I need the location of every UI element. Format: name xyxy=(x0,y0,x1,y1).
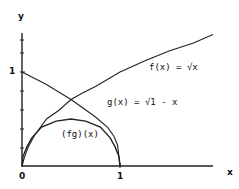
g-label: g(x) = √1 - x xyxy=(107,98,177,107)
y-tick-1: 1 xyxy=(9,67,15,76)
x-axis-label: x xyxy=(227,168,233,177)
x-axis xyxy=(22,163,213,168)
f-label: f(x) = √x xyxy=(149,63,198,72)
y-axis xyxy=(20,33,25,167)
y-axis-label: y xyxy=(18,12,24,21)
x-tick-1: 1 xyxy=(117,172,123,181)
x-tick-0: 0 xyxy=(19,172,25,181)
fg-label: (fg)(x) xyxy=(61,130,99,139)
plot-canvas xyxy=(0,0,239,189)
